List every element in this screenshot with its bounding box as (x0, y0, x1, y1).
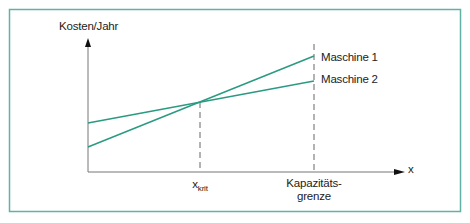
xkrit-label: xkrit (192, 178, 207, 195)
x-axis-label: x (408, 163, 414, 175)
frame (10, 10, 461, 212)
y-axis-arrow-icon (85, 38, 91, 47)
series-maschine-2 (88, 81, 314, 123)
y-axis-label: Kosten/Jahr (59, 20, 118, 32)
x-axis-arrow-icon (394, 169, 405, 175)
xkrit-sub: krit (198, 184, 208, 193)
capacity-label: Kapazitäts-grenze (286, 177, 341, 203)
series-label-maschine-1: Maschine 1 (321, 51, 378, 63)
diagram-canvas (0, 0, 470, 223)
capacity-label-line1: Kapazitäts- (286, 177, 341, 190)
series-label-maschine-2: Maschine 2 (321, 73, 378, 85)
capacity-label-line2: grenze (286, 190, 341, 203)
